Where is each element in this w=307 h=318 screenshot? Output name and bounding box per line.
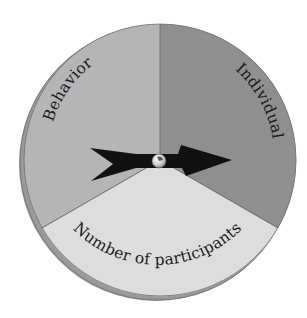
- spinner-wheel: Behavior Individual Number of participan…: [0, 0, 307, 318]
